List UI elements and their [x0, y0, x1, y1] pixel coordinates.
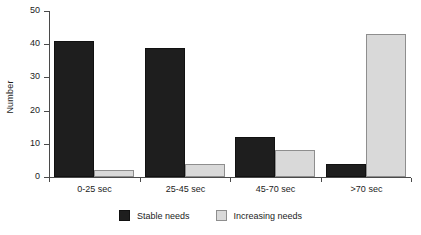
- y-tick-label-wrap: 20: [0, 111, 49, 112]
- y-tick-label-wrap: 30: [0, 77, 49, 78]
- chart-legend: Stable needsIncreasing needs: [0, 210, 421, 221]
- x-tick-mark: [49, 178, 50, 182]
- bar-stable-1: [145, 48, 185, 177]
- y-tick-label-wrap: 50: [0, 11, 49, 12]
- x-tick-mark: [230, 178, 231, 182]
- y-tick-label-wrap: 40: [0, 44, 49, 45]
- bar-increasing-0: [94, 170, 134, 177]
- y-axis-line: [49, 11, 50, 178]
- y-tick-label: 50: [7, 5, 49, 15]
- bar-stable-3: [326, 164, 366, 177]
- category-label: >70 sec: [321, 184, 412, 194]
- bar-increasing-1: [185, 164, 225, 177]
- plot-area: 01020304050 0-25 sec25-45 sec45-70 sec>7…: [0, 0, 421, 235]
- bar-chart-figure: Number 01020304050 0-25 sec25-45 sec45-7…: [0, 0, 421, 235]
- y-tick-label: 40: [7, 38, 49, 48]
- bar-increasing-3: [366, 34, 406, 177]
- bar-stable-2: [235, 137, 275, 177]
- legend-swatch-icon: [119, 210, 130, 221]
- y-tick-label: 0: [7, 171, 49, 181]
- category-label: 0-25 sec: [49, 184, 140, 194]
- y-tick-label: 30: [7, 71, 49, 81]
- x-tick-mark: [140, 178, 141, 182]
- y-tick-label: 10: [7, 138, 49, 148]
- category-label: 45-70 sec: [230, 184, 321, 194]
- y-tick-label-wrap: 0: [0, 177, 49, 178]
- y-tick-label: 20: [7, 105, 49, 115]
- legend-item-increasing-needs[interactable]: Increasing needs: [216, 210, 303, 221]
- category-label: 25-45 sec: [140, 184, 231, 194]
- bar-stable-0: [54, 41, 94, 177]
- y-tick-label-wrap: 10: [0, 144, 49, 145]
- x-tick-mark: [411, 178, 412, 182]
- legend-swatch-icon: [216, 210, 227, 221]
- x-tick-mark: [321, 178, 322, 182]
- legend-label: Increasing needs: [234, 211, 303, 221]
- bar-increasing-2: [275, 150, 315, 177]
- legend-label: Stable needs: [137, 211, 190, 221]
- legend-item-stable-needs[interactable]: Stable needs: [119, 210, 190, 221]
